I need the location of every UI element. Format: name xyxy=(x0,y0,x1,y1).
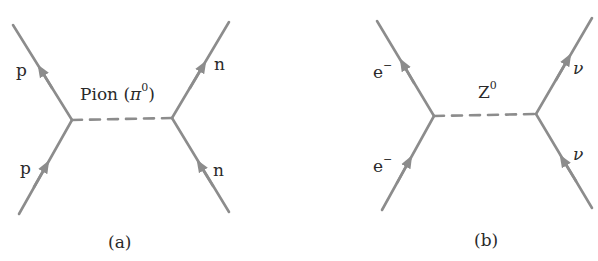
feynman-diagrams: p p n n Pion (π0) (a) e− e− ν ν Z0 (b) xyxy=(0,0,598,261)
electron-charge: − xyxy=(383,59,392,72)
caption-b: (b) xyxy=(474,232,498,249)
pi-symbol: π xyxy=(130,84,141,104)
diagram-a xyxy=(13,22,229,214)
arrow-icon xyxy=(200,165,213,186)
particle-label-p-bottom: p xyxy=(20,160,31,177)
z-boson-propagator xyxy=(434,114,536,116)
particle-label-electron-top: e− xyxy=(373,62,392,81)
arrow-icon xyxy=(397,161,409,183)
arrow-icon xyxy=(190,66,203,88)
caption-a: (a) xyxy=(108,234,131,251)
pi-superscript: 0 xyxy=(141,81,148,94)
z-text: Z xyxy=(478,82,490,102)
electron-charge: − xyxy=(383,153,392,166)
diagram-b xyxy=(377,18,592,210)
pion-close-paren: ) xyxy=(148,84,155,104)
mediator-label-z-boson: Z0 xyxy=(478,82,497,101)
particle-label-p-top: p xyxy=(16,62,27,79)
pion-text: Pion ( xyxy=(80,84,130,104)
arrow-icon xyxy=(556,59,568,80)
arrow-icon xyxy=(34,166,46,187)
particle-label-n-top: n xyxy=(214,56,225,73)
arrow-icon xyxy=(41,70,52,88)
pion-propagator xyxy=(72,118,172,120)
z-superscript: 0 xyxy=(490,79,497,92)
particle-label-n-bottom: n xyxy=(213,162,224,179)
electron-text: e xyxy=(373,62,383,82)
particle-label-neutrino-top: ν xyxy=(573,60,583,77)
particle-label-electron-bottom: e− xyxy=(373,156,392,175)
mediator-label-pion: Pion (π0) xyxy=(80,84,155,103)
arrow-icon xyxy=(403,64,414,83)
particle-label-neutrino-bottom: ν xyxy=(573,146,583,163)
electron-text: e xyxy=(373,156,383,176)
diagram-lines xyxy=(0,0,598,261)
